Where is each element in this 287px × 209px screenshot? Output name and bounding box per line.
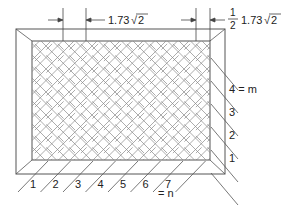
parquet-strip — [23, 170, 29, 176]
parquet-strip — [0, 193, 6, 199]
parquet-strip — [12, 101, 18, 107]
bottom-label: 4 — [98, 178, 104, 190]
parquet-strip — [0, 159, 6, 165]
parquet-strip — [0, 101, 6, 107]
parquet-strip — [253, 182, 259, 188]
parquet-line — [26, 0, 287, 209]
parquet-strip — [12, 124, 18, 130]
parquet-strip — [253, 124, 259, 130]
parquet-strip — [230, 193, 236, 199]
parquet-strip — [196, 205, 202, 209]
parquet-strip — [207, 170, 213, 176]
parquet-strip — [12, 193, 18, 199]
parquet-strip — [184, 170, 190, 176]
parquet-strip — [173, 193, 179, 199]
parquet-strip — [242, 0, 248, 4]
parquet-strip — [104, 0, 110, 4]
parquet-line — [191, 0, 286, 209]
parquet-strip — [173, 205, 179, 209]
parquet-strip — [219, 0, 225, 4]
parquet-strip — [219, 205, 225, 209]
parquet-strip — [196, 182, 202, 188]
parquet-strip — [161, 0, 167, 4]
parquet-strip — [276, 136, 282, 142]
parquet-strip — [150, 9, 156, 15]
parquet-strip — [92, 21, 98, 27]
bottom-count-lines — [18, 161, 206, 192]
parquet-strip — [0, 55, 6, 61]
dimension-left-radical: 2 — [138, 14, 144, 26]
parquet-strip — [265, 124, 271, 130]
parquet-strip — [276, 159, 282, 165]
parquet-strip — [92, 205, 98, 209]
parquet-strip — [230, 182, 236, 188]
parquet-strip — [12, 78, 18, 84]
parquet-strip — [173, 32, 179, 38]
parquet-strip — [242, 159, 248, 165]
parquet-strip — [230, 0, 236, 4]
parquet-strip — [276, 101, 282, 107]
parquet-strip — [46, 170, 52, 176]
parquet-strip — [23, 9, 29, 15]
parquet-strip — [230, 32, 236, 38]
parquet-strip — [265, 78, 271, 84]
parquet-strip — [0, 124, 6, 130]
bottom-count-labels: 1234567 — [30, 178, 171, 190]
parquet-strip — [265, 55, 271, 61]
parquet-strip — [35, 9, 41, 15]
parquet-strip — [242, 55, 248, 61]
parquet-strip — [0, 0, 6, 4]
parquet-strip — [230, 205, 236, 209]
parquet-strip — [230, 44, 236, 50]
parquet-strip — [81, 170, 87, 176]
parquet-strip — [276, 147, 282, 153]
parquet-strip — [276, 90, 282, 96]
parquet-strip — [150, 205, 156, 209]
parquet-line — [0, 0, 281, 209]
parquet-strip — [161, 170, 167, 176]
dimension-left — [48, 8, 105, 41]
parquet-strip — [150, 32, 156, 38]
parquet-strip — [242, 170, 248, 176]
bottom-label: 5 — [120, 178, 126, 190]
parquet-strip — [0, 205, 6, 209]
parquet-strip — [81, 182, 87, 188]
parquet-strip — [23, 182, 29, 188]
parquet-strip — [265, 205, 271, 209]
parquet-strip — [276, 78, 282, 84]
parquet-line — [0, 0, 5, 209]
fraction-denominator: 2 — [230, 20, 236, 31]
parquet-strip — [230, 55, 236, 61]
parquet-strip — [92, 9, 98, 15]
parquet-strip — [0, 182, 6, 188]
parquet-strip — [69, 32, 75, 38]
parquet-strip — [69, 0, 75, 4]
parquet-strip — [0, 78, 6, 84]
parquet-strip — [253, 101, 259, 107]
parquet-strip — [276, 44, 282, 50]
right-count-labels: 1234 = m — [229, 83, 257, 164]
parquet-strip — [23, 136, 29, 142]
parquet-strip — [115, 170, 121, 176]
parquet-strip — [81, 193, 87, 199]
parquet-strip — [219, 101, 225, 107]
parquet-strip — [207, 193, 213, 199]
parquet-line — [76, 0, 286, 209]
parquet-strip — [23, 193, 29, 199]
parquet-strip — [265, 147, 271, 153]
parquet-strip — [265, 0, 271, 4]
parquet-strip — [104, 193, 110, 199]
parquet-strip — [253, 136, 259, 142]
parquet-line — [0, 0, 269, 209]
parquet-strip — [173, 21, 179, 27]
parquet-line — [0, 0, 28, 209]
parquet-strip — [276, 55, 282, 61]
parquet-line — [0, 0, 74, 209]
parquet-strip — [69, 21, 75, 27]
parquet-strip — [115, 0, 121, 4]
parquet-strip — [173, 182, 179, 188]
parquet-strip — [12, 9, 18, 15]
parquet-strip — [138, 170, 144, 176]
parquet-strip — [276, 113, 282, 119]
parquet-strip — [242, 44, 248, 50]
